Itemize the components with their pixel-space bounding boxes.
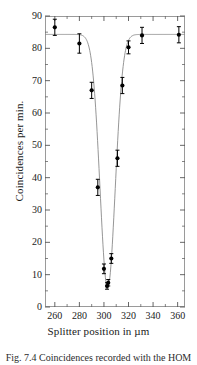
y-tick-label: 60	[32, 108, 42, 118]
y-tick-label: 10	[32, 270, 42, 280]
data-point	[102, 267, 106, 271]
x-tick-label: 320	[121, 310, 136, 322]
y-axis-title: Coincidences per min.	[13, 71, 25, 231]
x-tick-label: 340	[146, 310, 161, 322]
fit-curve	[45, 34, 185, 288]
hom-dip-figure: 0102030405060708090 Coincidences per min…	[0, 0, 197, 365]
y-tick-label: 80	[32, 43, 42, 53]
y-tick-label: 30	[32, 205, 42, 215]
data-point	[120, 83, 124, 87]
plot-area	[45, 16, 185, 307]
axis-ticks	[45, 16, 185, 307]
x-axis-title: Splitter position in µm	[0, 325, 197, 337]
y-tick-label: 20	[32, 237, 42, 247]
x-tick-label: 300	[96, 310, 111, 322]
y-tick-label: 90	[32, 11, 42, 21]
y-tick-label: 70	[32, 76, 42, 86]
y-tick-label: 0	[37, 302, 42, 312]
y-tick-label: 40	[32, 173, 42, 183]
figure-caption: Fig. 7.4 Coincidences recorded with the …	[0, 352, 197, 364]
x-axis-tick-labels: 260280300320340360	[45, 310, 185, 324]
data-point	[53, 25, 57, 29]
data-point	[115, 156, 119, 160]
data-point	[106, 281, 110, 285]
y-tick-label: 50	[32, 140, 42, 150]
x-tick-label: 360	[170, 310, 185, 322]
data-point	[126, 45, 130, 49]
x-tick-label: 260	[47, 310, 62, 322]
data-point	[109, 256, 113, 260]
data-point	[90, 88, 94, 92]
data-point	[77, 41, 81, 45]
x-tick-label: 280	[72, 310, 87, 322]
data-point	[140, 33, 144, 37]
chart-canvas	[45, 16, 185, 307]
data-point	[96, 185, 100, 189]
data-point	[177, 33, 181, 37]
